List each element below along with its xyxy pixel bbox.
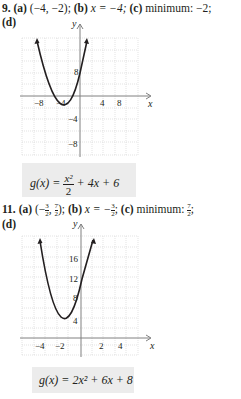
- svg-text:4: 4: [100, 98, 105, 108]
- parabola-graph-1: y x −8−4 48 8−4−8: [0, 0, 160, 160]
- x-axis-label: x: [149, 340, 155, 351]
- equation-box-2: g(x) = 2x² + 6x + 8: [32, 367, 134, 393]
- svg-text:8: 8: [74, 67, 79, 77]
- tick-labels: −4−2 24 48 1216: [35, 254, 123, 351]
- equation-lhs: g(x) =: [30, 176, 60, 190]
- svg-text:2: 2: [99, 341, 104, 351]
- svg-text:8: 8: [117, 98, 122, 108]
- y-axis-label: y: [71, 18, 77, 29]
- axes: [20, 224, 150, 357]
- curve-arrow-icon: [38, 238, 97, 244]
- grid: [22, 236, 138, 355]
- svg-text:12: 12: [69, 274, 78, 284]
- svg-text:4: 4: [118, 341, 123, 351]
- y-axis-label: y: [72, 218, 78, 229]
- equation: g(x) = 2x² + 6x + 8: [39, 373, 133, 388]
- svg-text:−8: −8: [34, 98, 44, 108]
- x-axis-label: x: [147, 98, 153, 109]
- svg-text:−4: −4: [68, 114, 78, 124]
- svg-text:4: 4: [73, 316, 78, 326]
- parabola-graph-2: y x −4−2 24 48 1216: [0, 200, 160, 365]
- equation-fraction: x² 2: [63, 172, 73, 197]
- axes: [20, 24, 150, 157]
- equation-box-1: g(x) = x² 2 + 4x + 6: [22, 163, 136, 197]
- equation-rest: + 4x + 6: [77, 176, 120, 190]
- svg-text:−4: −4: [35, 341, 45, 351]
- svg-text:−2: −2: [55, 341, 65, 351]
- svg-text:−8: −8: [68, 139, 78, 149]
- parabola-curve: [40, 240, 93, 319]
- curve-arrow-icon: [35, 38, 90, 44]
- svg-text:16: 16: [69, 254, 79, 264]
